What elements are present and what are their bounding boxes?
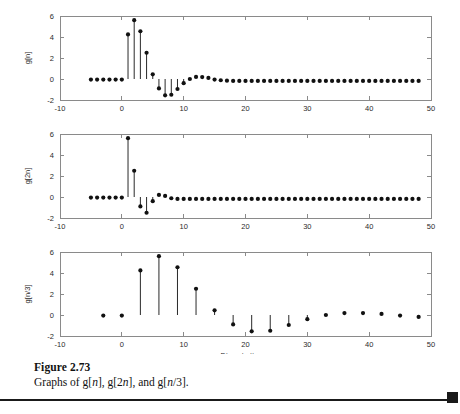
stem-plot-g-2n: -20246-1001020304050g[2n] <box>0 124 460 236</box>
stem-marker <box>107 77 111 81</box>
plot-g-2n: -20246-1001020304050g[2n] <box>0 124 460 236</box>
stem-marker <box>349 79 353 83</box>
x-tick-label: 30 <box>303 222 311 231</box>
stem-marker <box>157 86 161 90</box>
stem-marker <box>188 77 192 81</box>
stem-marker <box>194 287 198 291</box>
x-tick-label: -10 <box>55 340 66 349</box>
stem-marker <box>95 77 99 81</box>
stem-marker <box>151 72 155 76</box>
x-tick-label: 40 <box>365 104 373 113</box>
stem-marker <box>89 77 93 81</box>
stem-marker <box>268 79 272 83</box>
stem-marker <box>101 195 105 199</box>
stem-marker <box>144 211 148 215</box>
y-tick-label: 2 <box>50 290 54 299</box>
stem-marker <box>305 317 309 321</box>
y-tick-label: 0 <box>50 193 54 202</box>
stem-marker <box>225 197 229 201</box>
stem-marker <box>305 79 309 83</box>
stem-marker <box>318 197 322 201</box>
stem-marker <box>281 197 285 201</box>
stem-marker <box>157 193 161 197</box>
stem-marker <box>120 195 124 199</box>
stem-marker <box>367 197 371 201</box>
stem-marker <box>175 87 179 91</box>
page-footer-rule <box>0 399 448 401</box>
stem-marker <box>417 197 421 201</box>
stem-marker <box>250 197 254 201</box>
stem-marker <box>361 197 365 201</box>
stem-marker <box>194 75 198 79</box>
stem-marker <box>417 79 421 83</box>
y-axis-label: g[n/3] <box>23 285 32 304</box>
stem-marker <box>281 79 285 83</box>
stem-marker <box>212 197 216 201</box>
stem-marker <box>262 79 266 83</box>
stem-marker <box>194 197 198 201</box>
stem-marker <box>126 32 130 36</box>
stem-marker <box>287 79 291 83</box>
stem-marker <box>311 197 315 201</box>
stem-marker <box>237 197 241 201</box>
x-tick-label: 50 <box>427 222 435 231</box>
stem-marker <box>114 77 118 81</box>
stem-marker <box>373 197 377 201</box>
x-tick-label: 40 <box>365 222 373 231</box>
stem-marker <box>293 197 297 201</box>
stem-marker <box>126 136 130 140</box>
stem-marker <box>287 197 291 201</box>
y-tick-label: -2 <box>47 214 54 223</box>
stem-marker <box>386 79 390 83</box>
x-tick-label: 20 <box>241 222 249 231</box>
x-tick-label: 50 <box>427 340 435 349</box>
x-tick-label: -10 <box>55 222 66 231</box>
stem-marker <box>398 79 402 83</box>
stem-marker <box>268 329 272 333</box>
stem-marker <box>318 79 322 83</box>
stem-marker <box>324 79 328 83</box>
stem-marker <box>330 79 334 83</box>
x-axis-label: Discrete time n <box>220 351 270 354</box>
stem-marker <box>182 81 186 85</box>
stem-marker <box>256 79 260 83</box>
stem-marker <box>373 79 377 83</box>
stem-marker <box>206 197 210 201</box>
y-tick-label: -2 <box>47 332 54 341</box>
stem-marker <box>386 197 390 201</box>
x-tick-label: 20 <box>241 104 249 113</box>
y-axis-label: g[n] <box>23 52 32 65</box>
plot-g-n-over-3: -20246-1001020304050g[n/3]Discrete time … <box>0 242 460 354</box>
stem-marker <box>200 75 204 79</box>
stem-marker <box>336 197 340 201</box>
y-tick-label: 6 <box>50 12 54 21</box>
stem-marker <box>299 79 303 83</box>
y-tick-label: 4 <box>50 33 54 42</box>
y-tick-label: 2 <box>50 54 54 63</box>
stem-plot-g-n: -20246-1001020304050g[n] <box>0 6 460 118</box>
stem-marker <box>169 93 173 97</box>
caption-label: Figure 2.73 <box>34 360 434 374</box>
x-tick-label: 0 <box>120 104 124 113</box>
stem-marker <box>398 313 402 317</box>
stem-marker <box>311 79 315 83</box>
stem-marker <box>231 322 235 326</box>
x-tick-label: 50 <box>427 104 435 113</box>
stem-marker <box>398 197 402 201</box>
stem-marker <box>330 197 334 201</box>
stem-marker <box>107 195 111 199</box>
stem-marker <box>169 196 173 200</box>
stem-marker <box>299 197 303 201</box>
stem-marker <box>410 79 414 83</box>
stem-marker <box>342 311 346 315</box>
stem-marker <box>144 51 148 55</box>
stem-marker <box>379 312 383 316</box>
x-tick-label: 10 <box>179 340 187 349</box>
stem-marker <box>404 79 408 83</box>
stem-marker <box>138 204 142 208</box>
stem-marker <box>206 76 210 80</box>
stem-marker <box>287 323 291 327</box>
stem-marker <box>231 197 235 201</box>
stem-marker <box>188 197 192 201</box>
x-tick-label: 10 <box>179 104 187 113</box>
